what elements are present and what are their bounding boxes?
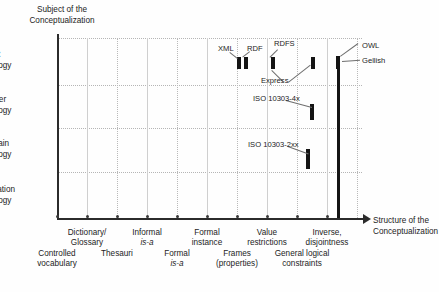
leader-line-owl <box>340 43 358 57</box>
gridline-horizontal-top <box>57 38 362 39</box>
x-tick-1 <box>86 215 89 218</box>
gridline-vertical-8 <box>297 38 298 218</box>
x-axis-title: Structure of the Conceptualization <box>373 216 439 237</box>
gridline-vertical-1 <box>87 38 88 218</box>
x-tick-5 <box>206 215 209 218</box>
gridline-vertical-3 <box>147 38 148 218</box>
data-label-xml: XML <box>218 44 234 53</box>
x-tick-0 <box>56 215 59 218</box>
x-tick-2 <box>116 215 119 218</box>
y-label-domain-ontology: Domain Ontology <box>0 139 55 160</box>
x-tick-9 <box>326 215 329 218</box>
x-axis-line <box>57 218 367 220</box>
data-label-iso-10303-2xx: ISO 10303-2xx <box>248 140 299 149</box>
x-label-general-logical-constraints: General logical constraints <box>255 249 349 269</box>
marker-rdf[interactable] <box>244 57 248 69</box>
data-label-iso-10303-4x: ISO 10303-4x <box>253 94 300 103</box>
gridline-vertical-10 <box>357 38 358 218</box>
x-axis-arrow-icon <box>363 214 371 224</box>
y-label-kr-ontology: KR Ontology <box>0 50 55 71</box>
data-label-rdfs: RDFS <box>274 39 295 48</box>
x-tick-7 <box>266 215 269 218</box>
marker-express[interactable] <box>311 57 315 69</box>
gridline-vertical-4 <box>177 38 178 218</box>
y-label-application-ontology: Application Ontology <box>0 185 55 206</box>
y-axis-line <box>57 34 59 220</box>
y-axis-title: Subject of the Conceptualization <box>14 5 110 26</box>
gridline-vertical-2 <box>117 38 118 218</box>
marker-xml[interactable] <box>237 57 241 69</box>
x-label-inverse-disjointness: Inverse, disjointness <box>288 228 366 248</box>
gridline-horizontal-kr <box>57 85 362 86</box>
gridline-vertical-5 <box>207 38 208 218</box>
chart-canvas: Subject of the Conceptualization Structu… <box>0 0 439 292</box>
marker-rdfs[interactable] <box>271 57 275 69</box>
x-tick-3 <box>146 215 149 218</box>
x-tick-4 <box>176 215 179 218</box>
data-label-gellish: Gellish <box>362 56 385 65</box>
data-label-rdf: RDF <box>247 44 263 53</box>
data-label-owl: OWL <box>362 41 379 50</box>
data-label-express: Express <box>261 76 288 85</box>
gridline-vertical-9 <box>327 38 328 218</box>
y-label-upper-ontology: Upper Ontology <box>0 95 55 116</box>
marker-gellish[interactable] <box>337 57 340 218</box>
x-tick-8 <box>296 215 299 218</box>
gridline-horizontal-domain <box>57 172 362 173</box>
gridline-vertical-7 <box>267 38 268 218</box>
x-tick-6 <box>236 215 239 218</box>
leader-line-express-right <box>288 65 311 83</box>
gridline-horizontal-upper <box>57 128 362 129</box>
